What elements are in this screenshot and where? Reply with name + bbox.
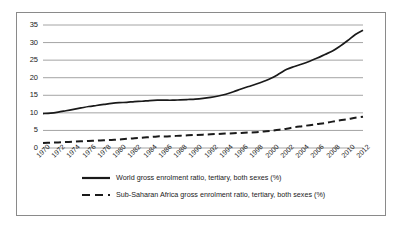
gridlines — [43, 25, 363, 148]
legend-item-subsaharan: Sub-Saharan Africa gross enrolment ratio… — [81, 190, 325, 200]
legend-label-world: World gross enrolment ratio, tertiary, b… — [116, 174, 282, 181]
plot-area — [17, 13, 385, 215]
y-tick-label: 0 — [19, 144, 38, 152]
legend-key-dashed-icon — [81, 190, 111, 200]
y-tick-label: 10 — [19, 109, 38, 117]
legend-item-world: World gross enrolment ratio, tertiary, b… — [81, 173, 282, 183]
y-tick-label: 5 — [19, 126, 38, 134]
y-tick-label: 25 — [19, 56, 38, 64]
chart-frame: 05101520253035 1970197219741976197819801… — [16, 12, 386, 216]
y-tick-label: 35 — [19, 21, 38, 29]
y-tick-label: 20 — [19, 74, 38, 82]
y-tick-label: 30 — [19, 39, 38, 47]
data-series-layer — [43, 30, 363, 143]
legend-label-subsaharan: Sub-Saharan Africa gross enrolment ratio… — [116, 191, 325, 198]
y-tick-label: 15 — [19, 91, 38, 99]
series-line-1 — [43, 117, 363, 143]
legend-key-solid-icon — [81, 173, 111, 183]
chart-figure: 05101520253035 1970197219741976197819801… — [0, 0, 414, 228]
